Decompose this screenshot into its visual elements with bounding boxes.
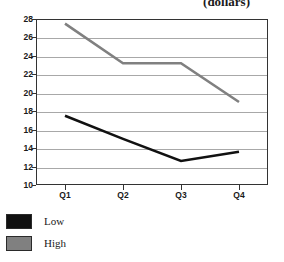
x-axis-tick-label: Q1 [45, 191, 85, 200]
x-axis-tick-label: Q3 [161, 191, 201, 200]
series-line-high [65, 24, 239, 102]
y-axis-tick-label: 16 [13, 125, 33, 134]
y-axis-tick-mark [32, 185, 36, 186]
series-layer [36, 19, 268, 185]
y-axis-tick-label: 28 [13, 15, 33, 24]
y-axis-tick-label: 24 [13, 52, 33, 61]
y-axis-tick-label: 12 [13, 162, 33, 171]
line-chart: (dollars) 10121416182022242628 Q1Q2Q3Q4 … [0, 0, 284, 262]
x-axis-tick-label: Q4 [219, 191, 259, 200]
y-axis-tick-label: 22 [13, 70, 33, 79]
legend-item-low: Low [6, 210, 136, 232]
legend-label-high: High [44, 238, 66, 249]
x-axis-tick-label: Q2 [103, 191, 143, 200]
y-axis-tick-label: 20 [13, 89, 33, 98]
chart-title: (dollars) [203, 0, 250, 10]
legend-swatch-low [6, 214, 32, 229]
legend-swatch-high [6, 236, 32, 251]
legend-item-high: High [6, 232, 136, 254]
series-line-low [65, 116, 239, 161]
y-axis-tick-label: 26 [13, 33, 33, 42]
y-axis-tick-label: 10 [13, 181, 33, 190]
y-axis-tick-label: 18 [13, 107, 33, 116]
chart-legend: LowHigh [6, 210, 136, 254]
y-axis-tick-label: 14 [13, 144, 33, 153]
legend-label-low: Low [44, 216, 64, 227]
